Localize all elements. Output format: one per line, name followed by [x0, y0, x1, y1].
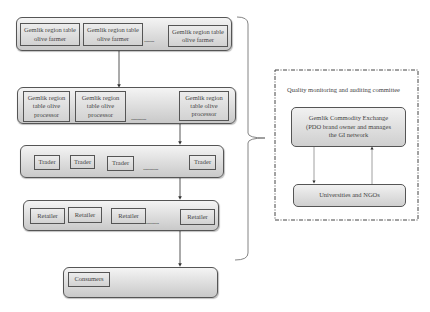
retailer-node: Retailer	[30, 208, 65, 224]
farmers-ellipsis: ........	[144, 36, 154, 44]
retailer-node: Retailer	[111, 208, 146, 224]
processor-node: Gemlik region table olive processor	[75, 91, 126, 122]
consumer-node: Consumers	[68, 272, 110, 287]
universities-box: Universities and NGOs	[293, 184, 406, 207]
trader-node: Trader	[70, 155, 95, 169]
trader-node: Trader	[189, 155, 216, 170]
trader-node: Trader	[107, 156, 134, 171]
trader-node: Trader	[34, 155, 60, 170]
exchange-box: Gemlik Commodity Exchange (PDO brand own…	[291, 107, 406, 147]
committee-title: Quality monitoring and auditing committe…	[287, 86, 400, 93]
processor-node: Gemlik region table olive processor	[23, 91, 70, 122]
bracket-brace	[235, 17, 265, 260]
farmer-node: Gemlik region table olive farmer	[83, 23, 143, 46]
retailers-ellipsis: ...........	[145, 218, 159, 226]
retailer-node: Retailer	[180, 209, 215, 225]
processors-ellipsis: ............	[131, 114, 146, 122]
retailer-node: Retailer	[68, 207, 102, 223]
farmer-node: Gemlik region table olive farmer	[168, 25, 228, 47]
farmer-node: Gemlik region table olive farmer	[20, 23, 80, 46]
traders-ellipsis: ............	[143, 164, 158, 172]
processor-node: Gemlik region table olive processor	[179, 91, 229, 121]
